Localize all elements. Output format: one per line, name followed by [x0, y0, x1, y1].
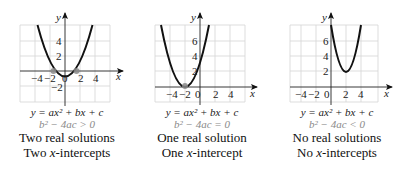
x-tick: 4	[358, 88, 364, 100]
equation: y = ax² + bx + c	[137, 106, 267, 118]
intercepts-text: Two x-intercepts	[2, 145, 132, 160]
x-tick: −2	[179, 88, 191, 100]
intercepts-prefix: Two	[24, 145, 50, 160]
x-tick: 2	[343, 88, 349, 100]
discriminant: b² − 4ac < 0	[272, 118, 402, 130]
intercepts-text: No x-intercepts	[272, 145, 402, 160]
x-tick: −4	[295, 88, 307, 100]
graph-no-solutions: −4 −2 0 2 4 6 4 2 x y	[290, 11, 392, 105]
y-tick: 4	[56, 35, 62, 47]
intercepts-prefix: No	[297, 145, 316, 160]
x-tick: 0	[324, 88, 330, 100]
caption-two-solutions: y = ax² + bx + c b² − 4ac > 0 Two real s…	[2, 106, 132, 160]
intercepts-text: One x-intercept	[137, 145, 267, 160]
equation: y = ax² + bx + c	[272, 106, 402, 118]
x-tick: 0	[62, 72, 68, 84]
caption-no-solutions: y = ax² + bx + c b² − 4ac < 0 No real so…	[272, 106, 402, 160]
solutions-text: No real solutions	[272, 130, 402, 145]
y-axis-label: y	[55, 11, 61, 23]
y-axis-label: y	[321, 11, 327, 23]
y-tick: 6	[323, 35, 329, 47]
x-axis-label: x	[115, 70, 121, 82]
graph-one-solution: −4 −2 0 2 4 6 4 2 x y	[155, 11, 257, 105]
discriminant: b² − 4ac = 0	[137, 118, 267, 130]
x-tick: −4	[166, 88, 178, 100]
x-tick: 2	[78, 72, 84, 84]
solutions-text: Two real solutions	[2, 130, 132, 145]
caption-one-solution: y = ax² + bx + c b² − 4ac = 0 One real s…	[137, 106, 267, 160]
graph-two-solutions: −4 −2 0 2 4 4 2 −2 x y	[20, 11, 123, 106]
intercepts-suffix: -intercepts	[56, 145, 111, 160]
x-tick: −4	[31, 72, 43, 84]
y-tick: 6	[192, 35, 198, 47]
equation: y = ax² + bx + c	[2, 106, 132, 118]
y-axis-label: y	[190, 11, 196, 23]
y-tick: −2	[51, 81, 63, 93]
x-tick: 4	[93, 72, 99, 84]
x-tick: 0	[195, 88, 201, 100]
intercepts-prefix: One	[162, 145, 187, 160]
y-tick: 2	[56, 50, 62, 62]
x-axis-label: x	[249, 87, 255, 99]
x-tick: 4	[228, 88, 234, 100]
y-tick: 2	[192, 65, 198, 77]
intercepts-suffix: -intercept	[192, 145, 242, 160]
intercepts-suffix: -intercepts	[322, 145, 377, 160]
x-axis-label: x	[383, 87, 389, 99]
y-tick: 4	[323, 50, 329, 62]
x-tick: 2	[213, 88, 219, 100]
x-tick: −2	[308, 88, 320, 100]
y-tick: 4	[192, 50, 198, 62]
solutions-text: One real solution	[137, 130, 267, 145]
y-tick: 2	[323, 65, 329, 77]
discriminant: b² − 4ac > 0	[2, 118, 132, 130]
